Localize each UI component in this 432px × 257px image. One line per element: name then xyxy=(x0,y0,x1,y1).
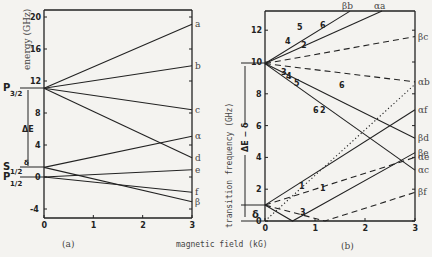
y-tick-label: 8 xyxy=(35,109,41,118)
transition-number: 2 xyxy=(320,106,326,115)
y-tick-label: 2 xyxy=(256,185,262,194)
transition-number: 6 xyxy=(339,81,345,90)
series-dotted xyxy=(265,84,415,221)
y-tick-label: 4 xyxy=(35,141,41,150)
x-tick-label: 2 xyxy=(363,224,369,233)
series-label: αc xyxy=(418,165,429,175)
figure-canvas: 0123-4048121620 abcdαβef energy (GHz) P … xyxy=(0,0,432,257)
series-label: e xyxy=(195,165,200,175)
y-tick-label: 12 xyxy=(251,26,262,35)
x-tick-label: 2 xyxy=(140,221,146,230)
panel-b-series-labels: βbαaβcαbβdαcαfβeαeβf xyxy=(342,1,430,197)
panel-a-ticks: 0123-4048121620 xyxy=(30,13,195,230)
series-label: αe xyxy=(418,152,429,162)
panel-a-lines xyxy=(44,24,192,202)
x-tick-label: 1 xyxy=(313,224,319,233)
series-label: αf xyxy=(418,105,428,115)
y-tick-label: 4 xyxy=(256,153,262,162)
series-α xyxy=(44,136,192,167)
y-tick-label: 6 xyxy=(256,122,262,131)
series-label: f xyxy=(195,187,199,197)
series-e xyxy=(44,170,192,177)
panel-a-series-labels: abcdαβef xyxy=(195,19,201,207)
series-label: αb xyxy=(418,77,430,87)
series-αa xyxy=(265,11,382,63)
x-tick-label: 3 xyxy=(190,221,196,230)
x-tick-label: 3 xyxy=(413,224,419,233)
transition-number: 6 xyxy=(313,106,319,115)
series-label: βf xyxy=(418,187,427,197)
y-tick-label: -4 xyxy=(30,205,39,214)
series-label: a xyxy=(195,19,201,29)
series-label: α xyxy=(195,131,201,141)
series-label: d xyxy=(195,153,201,163)
transition-number: 1 xyxy=(299,182,305,191)
p32-sub: 3/2 xyxy=(10,90,22,98)
delta-e-label: ΔE xyxy=(22,125,34,134)
s12-sub: 1/2 xyxy=(10,168,22,176)
panel-b-ylabel: transition frequency (GHz) xyxy=(225,103,234,228)
panel-a-caption: (a) xyxy=(62,239,74,249)
series-αe xyxy=(265,157,415,205)
transition-number: 6 xyxy=(320,21,326,30)
series-f xyxy=(44,177,192,192)
series-label: b xyxy=(195,61,201,71)
series-b xyxy=(44,66,192,88)
transition-number: 5 xyxy=(294,79,300,88)
series-label: β xyxy=(195,197,200,207)
series-αf xyxy=(265,110,415,205)
panel-b-delta-label: δ xyxy=(252,209,259,220)
transition-number: 1 xyxy=(320,184,326,193)
y-tick-label: 8 xyxy=(256,90,262,99)
series-βf xyxy=(265,192,415,221)
transition-number: 2 xyxy=(301,41,307,50)
series-a xyxy=(44,24,192,88)
panel-b-caption: (b) xyxy=(341,241,354,251)
panel-a xyxy=(44,10,192,218)
transition-number: 3 xyxy=(300,208,306,217)
shared-xlabel: magnetic field (kG) xyxy=(176,240,268,249)
y-tick-label: 12 xyxy=(30,77,41,86)
series-label: βb xyxy=(342,1,353,11)
series-label: βc xyxy=(418,32,428,42)
delta-label: δ xyxy=(24,159,29,167)
x-tick-label: 0 xyxy=(263,224,269,233)
transition-number: 5 xyxy=(297,23,303,32)
series-label: c xyxy=(195,105,200,115)
delta-e-minus-delta-label: ΔE − δ xyxy=(241,122,250,152)
series-label: βd xyxy=(418,133,429,143)
x-tick-label: 1 xyxy=(91,221,97,230)
panel-a-ylabel: energy (GHz) xyxy=(22,9,32,70)
series-label: αa xyxy=(374,1,386,11)
x-tick-label: 0 xyxy=(42,221,48,230)
p12-sub: 1/2 xyxy=(10,180,22,188)
transition-number: 4 xyxy=(285,37,291,46)
transition-number: 4 xyxy=(286,72,292,81)
